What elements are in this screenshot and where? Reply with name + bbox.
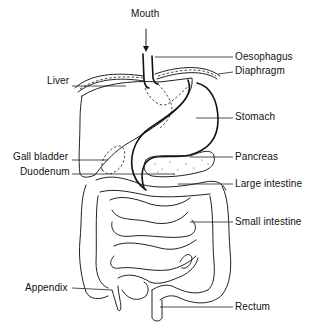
label-gall-bladder: Gall bladder (13, 151, 68, 163)
label-oesophagus: Oesophagus (235, 51, 293, 63)
label-mouth: Mouth (131, 8, 159, 20)
label-diaphragm: Diaphragm (235, 65, 285, 77)
label-appendix: Appendix (25, 282, 68, 294)
pancreas-shape (144, 151, 214, 176)
anatomy-illustration (0, 0, 313, 330)
appendix-shape (112, 286, 121, 311)
liver-shape (79, 78, 192, 177)
oesophagus-shape (143, 54, 192, 105)
digestive-system-diagram: Mouth Oesophagus Diaphragm Liver Stomach… (0, 0, 313, 330)
label-pancreas: Pancreas (235, 151, 278, 163)
small-intestine-shape (110, 197, 198, 299)
label-liver: Liver (47, 75, 69, 87)
mouth-arrow-icon (143, 29, 149, 52)
large-intestine-shape (79, 177, 230, 321)
label-large-intestine: Large intestine (235, 178, 302, 190)
label-small-intestine: Small intestine (235, 216, 302, 228)
stomach-shape (132, 80, 218, 190)
label-rectum: Rectum (235, 301, 270, 313)
label-stomach: Stomach (235, 111, 275, 123)
label-duodenum: Duodenum (20, 166, 70, 178)
